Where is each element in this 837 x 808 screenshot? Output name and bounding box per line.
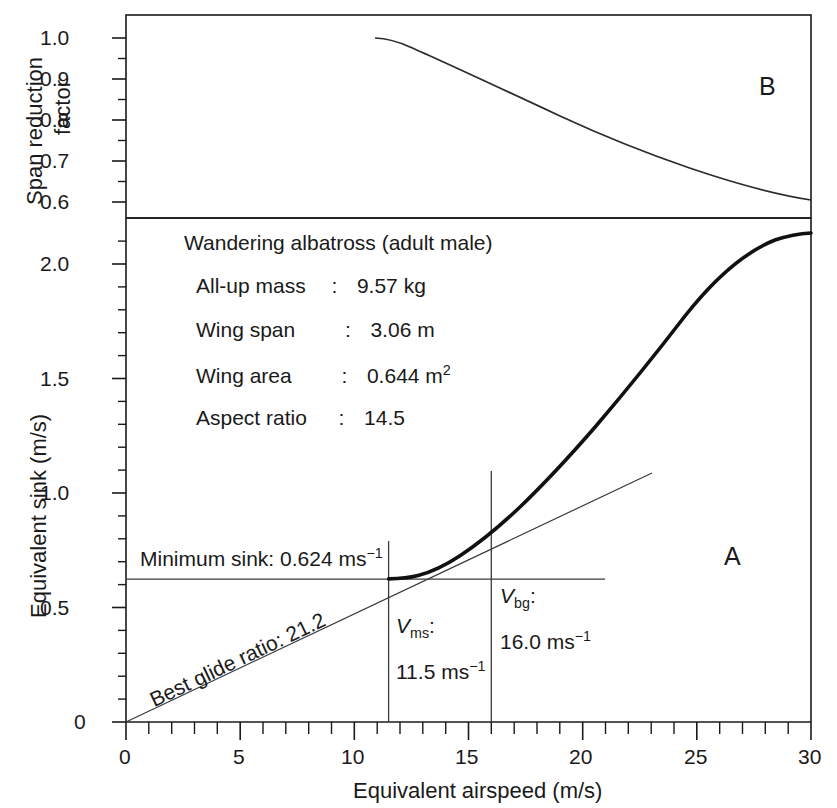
spec-sep-aspect: :	[339, 406, 345, 429]
panel-a-xtick-25: 25	[684, 745, 707, 769]
spec-label-mass: All-up mass	[196, 274, 306, 297]
panel-a-xtick-0: 0	[119, 745, 131, 769]
panel-b-label: B	[759, 72, 776, 101]
vbg-symbol: V	[500, 584, 514, 607]
vbg-subscript: bg	[514, 595, 530, 611]
panel-a-x-axis-title: Equivalent airspeed (m/s)	[353, 778, 602, 804]
panel-b-major-ticks	[112, 38, 126, 202]
vbg-annotation-value: 16.0 ms−1	[500, 628, 591, 654]
panel-a-xtick-30: 30	[798, 745, 821, 769]
panel-a-label: A	[724, 542, 741, 571]
panel-b-box	[126, 15, 811, 218]
panel-a-x-major-ticks	[126, 722, 811, 740]
spec-sep-area: :	[341, 364, 347, 387]
panel-b-ytick-1-0: 1.0	[40, 26, 69, 50]
spec-label-span: Wing span	[196, 318, 295, 341]
panel-a-ytick-1-5: 1.5	[40, 367, 69, 391]
panel-a-ytick-0: 0	[74, 710, 86, 734]
vms-symbol: V	[396, 614, 410, 637]
panel-a-y-axis-title: Equivalent sink (m/s)	[26, 414, 52, 618]
panel-a-ytick-2-0: 2.0	[40, 252, 69, 276]
spec-sep-span: :	[345, 318, 351, 341]
vms-annotation-value: 11.5 ms−1	[396, 658, 485, 684]
panel-a-xtick-10: 10	[341, 745, 364, 769]
minimum-sink-text: Minimum sink: 0.624 ms	[140, 547, 366, 570]
vbg-annotation-name: Vbg:	[500, 584, 536, 611]
minimum-sink-exponent: −1	[366, 545, 382, 561]
spec-value-area: 0.644 m	[367, 364, 443, 387]
vms-value-exponent: −1	[469, 658, 485, 674]
figure-container: 1.0 0.9 0.8 0.7 0.6 Span reduction facto…	[0, 0, 837, 808]
spec-value-span: 3.06 m	[370, 318, 434, 341]
panel-b-y-axis-title-line2: factor	[50, 80, 76, 135]
specs-title: Wandering albatross (adult male)	[184, 231, 493, 255]
span-reduction-curve	[375, 38, 811, 200]
vbg-colon: :	[530, 584, 536, 607]
minimum-sink-annotation: Minimum sink: 0.624 ms−1	[140, 545, 383, 571]
panel-b-frame	[126, 15, 811, 218]
spec-label-area: Wing area	[196, 364, 292, 387]
spec-sep-mass: :	[331, 274, 337, 297]
panel-a-y-minor-ticks	[118, 241, 126, 699]
spec-row-span: Wing span : 3.06 m	[196, 318, 435, 342]
glide-polar-curve	[389, 233, 811, 579]
vms-annotation-name: Vms:	[396, 614, 435, 641]
spec-value-mass: 9.57 kg	[357, 274, 426, 297]
vms-colon: :	[429, 614, 435, 637]
spec-value-aspect: 14.5	[364, 406, 405, 429]
panel-a-xtick-5: 5	[233, 745, 245, 769]
vms-value: 11.5 ms	[396, 660, 469, 683]
spec-label-aspect: Aspect ratio	[196, 406, 307, 429]
panel-a-xtick-20: 20	[569, 745, 592, 769]
panel-b-y-axis-title-line1: Span reduction	[22, 57, 48, 205]
spec-row-aspect: Aspect ratio : 14.5	[196, 406, 405, 430]
vbg-value: 16.0 ms	[500, 630, 575, 653]
vbg-value-exponent: −1	[575, 628, 591, 644]
spec-row-area: Wing area : 0.644 m2	[196, 362, 451, 388]
spec-row-mass: All-up mass : 9.57 kg	[196, 274, 426, 298]
vms-subscript: ms	[410, 625, 429, 641]
panel-a-xtick-15: 15	[455, 745, 478, 769]
glide-polar-figure	[0, 0, 837, 808]
spec-value-area-exponent: 2	[443, 362, 451, 378]
